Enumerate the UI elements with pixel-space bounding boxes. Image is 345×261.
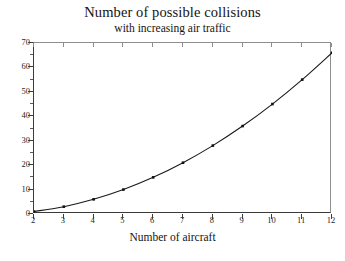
y-axis-tick-label: 50 — [8, 86, 30, 96]
y-axis-tick-mark — [28, 91, 33, 92]
y-axis-minor-tick-mark — [30, 176, 33, 177]
plot-canvas — [34, 43, 332, 214]
plot-area — [33, 42, 331, 213]
x-axis-top-tick-mark — [331, 43, 332, 47]
data-point-marker — [152, 176, 155, 179]
x-axis-top-tick-mark — [212, 43, 213, 47]
data-line-series — [34, 53, 332, 212]
x-axis-top-tick-mark — [152, 43, 153, 47]
y-axis-tick-label: 40 — [8, 110, 30, 120]
y-axis-minor-tick-mark — [30, 54, 33, 55]
x-axis-tick-mark — [33, 214, 34, 219]
y-axis-tick-mark — [28, 140, 33, 141]
page-title: Number of possible collisions — [0, 4, 345, 21]
data-point-marker — [301, 78, 304, 81]
y-axis-tick-label: 70 — [8, 37, 30, 47]
title-block: Number of possible collisions with incre… — [0, 4, 345, 35]
data-point-marker — [34, 210, 35, 213]
x-axis-tick-mark — [242, 214, 243, 219]
x-axis-top-tick-mark — [242, 43, 243, 47]
x-axis-top-tick-mark — [182, 43, 183, 47]
x-axis-tick-mark — [152, 214, 153, 219]
x-axis-tick-mark — [212, 214, 213, 219]
data-point-marker — [122, 188, 125, 191]
data-point-marker — [182, 161, 185, 164]
y-axis-minor-tick-mark — [30, 103, 33, 104]
y-axis-tick-mark — [28, 66, 33, 67]
y-axis-minor-tick-mark — [30, 152, 33, 153]
x-axis-label: Number of aircraft — [0, 231, 345, 243]
data-point-marker — [92, 198, 95, 201]
data-point-marker — [212, 144, 215, 147]
chart-subtitle: with increasing air traffic — [0, 21, 345, 35]
x-axis-top-tick-mark — [122, 43, 123, 47]
x-axis-top-tick-mark — [63, 43, 64, 47]
x-axis-tick-mark — [271, 214, 272, 219]
data-point-markers — [34, 51, 332, 212]
data-point-marker — [241, 125, 244, 128]
data-point-marker — [63, 205, 66, 208]
x-axis-top-tick-mark — [93, 43, 94, 47]
data-point-marker — [331, 51, 332, 54]
y-axis-tick-mark — [28, 189, 33, 190]
y-axis-tick-label: 30 — [8, 135, 30, 145]
data-point-marker — [271, 103, 274, 106]
y-axis-tick-label: 20 — [8, 159, 30, 169]
y-axis-tick-label: 10 — [8, 184, 30, 194]
y-axis-tick-label: 60 — [8, 61, 30, 71]
x-axis-tick-mark — [122, 214, 123, 219]
x-axis-tick-mark — [93, 214, 94, 219]
y-axis-minor-tick-mark — [30, 79, 33, 80]
y-axis-minor-tick-mark — [30, 128, 33, 129]
y-axis-tick-mark — [28, 115, 33, 116]
chart-figure: Number of possible collisions with incre… — [0, 0, 345, 261]
x-axis-tick-mark — [182, 214, 183, 219]
x-axis-tick-mark — [63, 214, 64, 219]
x-axis-top-tick-mark — [301, 43, 302, 47]
x-axis-tick-mark — [301, 214, 302, 219]
x-axis-tick-mark — [331, 214, 332, 219]
y-axis-minor-tick-mark — [30, 201, 33, 202]
x-axis-top-tick-mark — [271, 43, 272, 47]
x-axis-top-tick-mark — [33, 43, 34, 47]
y-axis-tick-mark — [28, 164, 33, 165]
